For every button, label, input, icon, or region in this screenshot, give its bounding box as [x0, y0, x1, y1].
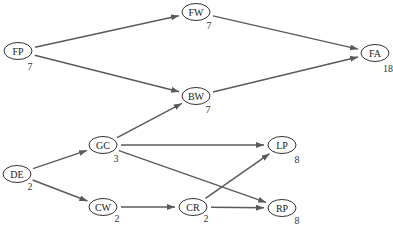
node-de: DE2 [3, 166, 33, 192]
node-duration: 2 [115, 213, 120, 224]
node-duration: 8 [295, 154, 300, 165]
node-duration: 7 [206, 104, 211, 115]
node-cw: CW2 [89, 199, 120, 224]
edge-de-to-gc [33, 150, 87, 168]
node-fw: FW7 [182, 4, 212, 31]
edge-gc-to-rp [119, 151, 266, 203]
edge-fp-to-fw [35, 16, 179, 48]
edge-cr-to-rp [211, 207, 264, 208]
edge-fp-to-bw [35, 55, 179, 92]
edge-bw-to-fa [213, 57, 358, 92]
node-label: RP [276, 203, 289, 214]
edge-gc-to-bw [117, 103, 182, 137]
node-label: FA [369, 48, 382, 59]
node-duration: 7 [28, 61, 33, 72]
node-label: GC [96, 140, 110, 151]
edge-de-to-cw [33, 180, 88, 201]
node-duration: 8 [295, 215, 300, 226]
node-label: DE [10, 169, 23, 180]
node-label: BW [188, 91, 205, 102]
activity-network-diagram: FP7FW7FA18BW7GC3DE2CW2CR2LP8RP8 [0, 0, 393, 225]
edge-fw-to-fa [213, 16, 358, 49]
node-duration: 2 [28, 181, 33, 192]
node-duration: 2 [204, 213, 209, 224]
edges-layer [33, 16, 359, 208]
node-lp: LP8 [268, 137, 300, 165]
node-label: LP [276, 140, 288, 151]
node-duration: 18 [383, 63, 393, 74]
node-label: CR [186, 202, 200, 213]
node-fa: FA18 [361, 45, 393, 74]
node-duration: 7 [207, 20, 212, 31]
node-label: FP [12, 46, 24, 57]
node-bw: BW7 [182, 88, 211, 115]
node-label: FW [189, 7, 205, 18]
node-gc: GC3 [89, 137, 119, 164]
node-duration: 3 [114, 153, 119, 164]
node-fp: FP7 [4, 43, 33, 72]
node-cr: CR2 [179, 199, 209, 224]
node-label: CW [95, 202, 112, 213]
node-rp: RP8 [268, 200, 300, 226]
